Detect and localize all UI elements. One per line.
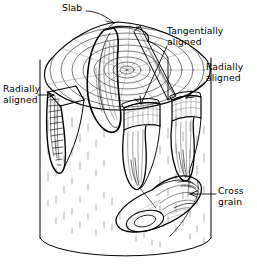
illustration-canvas: Slab Tangentially aligned Radially align…: [0, 0, 257, 267]
leader-slab: [86, 11, 114, 23]
label-slab: Slab: [62, 3, 82, 14]
tangential-blank-center: [122, 99, 160, 190]
label-tangentially-aligned: Tangentially aligned: [167, 26, 223, 47]
radial-blank-right: [170, 92, 201, 182]
label-radially-aligned-right: Radially aligned: [206, 62, 243, 83]
label-radially-aligned-left: Radially aligned: [3, 84, 40, 105]
label-cross-grain: Cross grain: [218, 186, 244, 207]
projection-line: [140, 188, 156, 208]
